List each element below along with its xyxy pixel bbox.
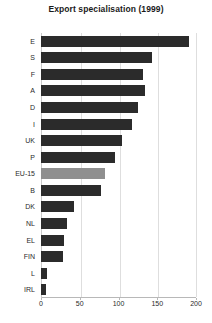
gridline-200: [196, 33, 197, 297]
y-axis-labels: ESFADIUKPEU-15BDKNLELFINLIRL: [0, 33, 38, 298]
bar-uk: [41, 135, 122, 146]
y-axis-label: S: [0, 50, 38, 67]
x-axis-labels: 050100150200: [0, 300, 212, 314]
bar-row: [41, 265, 196, 282]
bar-eu-15: [41, 168, 105, 179]
y-axis-label: P: [0, 149, 38, 166]
bar-row: [41, 50, 196, 67]
bar-row: [41, 66, 196, 83]
bar-row: [41, 149, 196, 166]
y-axis-label: IRL: [0, 281, 38, 298]
y-axis-label: A: [0, 83, 38, 100]
bar-row: [41, 232, 196, 249]
x-axis-tick-label: 50: [76, 300, 84, 307]
y-axis-label: FIN: [0, 248, 38, 265]
bar-row: [41, 182, 196, 199]
bar-row: [41, 99, 196, 116]
y-axis-label: EL: [0, 232, 38, 249]
chart-container: Export specialisation (1999) ESFADIUKPEU…: [0, 0, 212, 323]
x-axis-tick-label: 200: [190, 300, 202, 307]
bar-a: [41, 85, 145, 96]
bar-row: [41, 33, 196, 50]
bar-b: [41, 185, 101, 196]
x-axis-tick-label: 100: [113, 300, 125, 307]
y-axis-label: DK: [0, 199, 38, 216]
chart-title: Export specialisation (1999): [0, 4, 212, 14]
bar-fin: [41, 251, 63, 262]
bar-row: [41, 199, 196, 216]
bar-dk: [41, 201, 74, 212]
bar-e: [41, 36, 189, 47]
bar-d: [41, 102, 138, 113]
bar-series: [41, 33, 196, 298]
x-axis-tick-label: 150: [151, 300, 163, 307]
y-axis-label: UK: [0, 132, 38, 149]
bar-p: [41, 152, 115, 163]
bar-row: [41, 281, 196, 298]
y-axis-label: EU-15: [0, 166, 38, 183]
bar-l: [41, 268, 47, 279]
bar-row: [41, 132, 196, 149]
bar-row: [41, 116, 196, 133]
y-axis-label: L: [0, 265, 38, 282]
bar-nl: [41, 218, 67, 229]
y-axis-label: I: [0, 116, 38, 133]
bar-el: [41, 235, 64, 246]
bar-f: [41, 69, 143, 80]
y-axis-label: F: [0, 66, 38, 83]
bar-irl: [41, 284, 46, 295]
y-axis-label: D: [0, 99, 38, 116]
bar-row: [41, 215, 196, 232]
bar-row: [41, 166, 196, 183]
y-axis-label: B: [0, 182, 38, 199]
bar-row: [41, 248, 196, 265]
bar-i: [41, 119, 132, 130]
y-axis-label: NL: [0, 215, 38, 232]
bar-row: [41, 83, 196, 100]
y-axis-label: E: [0, 33, 38, 50]
x-axis-tick-label: 0: [39, 300, 43, 307]
bar-s: [41, 52, 152, 63]
